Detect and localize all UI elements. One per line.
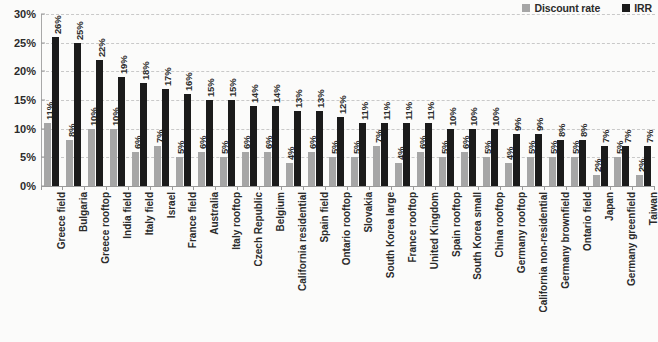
bar-discount-rate[interactable]: 2% bbox=[636, 175, 643, 186]
bar-irr[interactable]: 11% bbox=[425, 123, 432, 186]
bar-irr[interactable]: 11% bbox=[403, 123, 410, 186]
bar-irr[interactable]: 15% bbox=[206, 100, 213, 186]
x-axis-label-cell: Italy rooftop bbox=[216, 192, 238, 340]
x-axis-tick-mark bbox=[567, 186, 589, 190]
bar-discount-rate[interactable]: 6% bbox=[308, 152, 315, 186]
bar-irr[interactable]: 19% bbox=[118, 77, 125, 186]
bar-irr[interactable]: 9% bbox=[513, 134, 520, 186]
bar-irr[interactable]: 26% bbox=[52, 37, 59, 186]
bar-discount-rate[interactable]: 5% bbox=[220, 157, 227, 186]
bar-discount-rate[interactable]: 6% bbox=[461, 152, 468, 186]
x-axis-label-cell: India field bbox=[107, 192, 129, 340]
bar-irr[interactable]: 16% bbox=[184, 94, 191, 186]
bar-irr[interactable]: 11% bbox=[381, 123, 388, 186]
bar-group: 5%9% bbox=[523, 14, 545, 186]
y-axis-tick-mark bbox=[41, 42, 45, 43]
bar-discount-rate[interactable]: 4% bbox=[395, 163, 402, 186]
bar-irr[interactable]: 10% bbox=[491, 129, 498, 186]
bar-discount-rate[interactable]: 5% bbox=[614, 157, 621, 186]
bar-irr[interactable]: 18% bbox=[140, 83, 147, 186]
bar-discount-rate[interactable]: 5% bbox=[527, 157, 534, 186]
x-axis-label-cell: Taiwan bbox=[633, 192, 655, 340]
legend-label: IRR bbox=[634, 2, 652, 14]
y-axis-tick-mark bbox=[41, 100, 45, 101]
bar-irr[interactable]: 9% bbox=[535, 134, 542, 186]
bar-irr[interactable]: 25% bbox=[74, 43, 81, 186]
bar-irr[interactable]: 8% bbox=[557, 140, 564, 186]
x-axis-label-cell: France rooftop bbox=[392, 192, 414, 340]
square-swatch-icon bbox=[522, 4, 530, 12]
y-axis-tick-label: 30% bbox=[14, 8, 36, 20]
bar-group: 5%8% bbox=[545, 14, 567, 186]
bar-discount-rate[interactable]: 6% bbox=[132, 152, 139, 186]
y-axis-tick-label: 0% bbox=[20, 180, 36, 192]
bar-discount-rate[interactable]: 5% bbox=[329, 157, 336, 186]
bar-group: 4%13% bbox=[282, 14, 304, 186]
bar-discount-rate[interactable]: 5% bbox=[351, 157, 358, 186]
bar-discount-rate[interactable]: 5% bbox=[571, 157, 578, 186]
x-axis-label-cell: France field bbox=[173, 192, 195, 340]
bar-irr[interactable]: 12% bbox=[337, 117, 344, 186]
x-axis-tick-mark bbox=[238, 186, 260, 190]
y-axis-tick-label: 20% bbox=[14, 65, 36, 77]
bar-irr[interactable]: 8% bbox=[579, 140, 586, 186]
x-axis-tick-mark bbox=[458, 186, 480, 190]
x-axis-label-cell: California non-residential bbox=[523, 192, 545, 340]
legend-item[interactable]: IRR bbox=[622, 2, 652, 14]
bar-discount-rate[interactable]: 7% bbox=[373, 146, 380, 186]
bar-value-label: 8% bbox=[556, 124, 567, 137]
x-axis-tick-mark bbox=[436, 186, 458, 190]
bar-irr[interactable]: 15% bbox=[228, 100, 235, 186]
bar-group: 2%7% bbox=[589, 14, 611, 186]
bar-discount-rate[interactable]: 6% bbox=[198, 152, 205, 186]
bar-irr[interactable]: 11% bbox=[359, 123, 366, 186]
bar-discount-rate[interactable]: 6% bbox=[264, 152, 271, 186]
x-axis-tick-mark bbox=[611, 186, 633, 190]
bar-discount-rate[interactable]: 10% bbox=[88, 129, 95, 186]
x-axis-label-cell: Ontario field bbox=[567, 192, 589, 340]
bar-discount-rate[interactable]: 6% bbox=[242, 152, 249, 186]
bar-irr[interactable]: 7% bbox=[644, 146, 651, 186]
bar-discount-rate[interactable]: 10% bbox=[110, 129, 117, 186]
bar-irr[interactable]: 10% bbox=[469, 129, 476, 186]
x-axis-tick-mark bbox=[85, 186, 107, 190]
x-axis-ticks bbox=[41, 186, 655, 190]
bar-discount-rate[interactable]: 7% bbox=[154, 146, 161, 186]
x-axis-label-cell: Italy field bbox=[129, 192, 151, 340]
y-axis-tick-mark bbox=[41, 128, 45, 129]
bar-discount-rate[interactable]: 5% bbox=[483, 157, 490, 186]
bar-discount-rate[interactable]: 4% bbox=[505, 163, 512, 186]
bar-irr[interactable]: 10% bbox=[447, 129, 454, 186]
bar-group: 5%16% bbox=[173, 14, 195, 186]
bar-discount-rate[interactable]: 5% bbox=[549, 157, 556, 186]
bar-irr[interactable]: 13% bbox=[316, 111, 323, 186]
x-axis-label-cell: Germany greenfield bbox=[611, 192, 633, 340]
bar-irr[interactable]: 17% bbox=[162, 89, 169, 186]
x-axis-tick-mark bbox=[304, 186, 326, 190]
bar-irr[interactable]: 7% bbox=[601, 146, 608, 186]
y-axis-tick-mark bbox=[41, 157, 45, 158]
bar-group: 5%10% bbox=[479, 14, 501, 186]
bar-value-label: 14% bbox=[249, 84, 260, 102]
bar-discount-rate[interactable]: 8% bbox=[66, 140, 73, 186]
bar-irr[interactable]: 7% bbox=[622, 146, 629, 186]
bar-irr[interactable]: 14% bbox=[272, 106, 279, 186]
bar-discount-rate[interactable]: 6% bbox=[417, 152, 424, 186]
bar-group: 6%13% bbox=[304, 14, 326, 186]
bar-group: 5%12% bbox=[326, 14, 348, 186]
bar-group: 4%11% bbox=[392, 14, 414, 186]
bar-discount-rate[interactable]: 4% bbox=[286, 163, 293, 186]
bar-discount-rate[interactable]: 11% bbox=[44, 123, 51, 186]
bar-irr[interactable]: 22% bbox=[96, 60, 103, 186]
bar-discount-rate[interactable]: 2% bbox=[593, 175, 600, 186]
x-axis-label-cell: Israel bbox=[151, 192, 173, 340]
x-axis-tick-mark bbox=[107, 186, 129, 190]
bar-irr[interactable]: 13% bbox=[294, 111, 301, 186]
bar-discount-rate[interactable]: 5% bbox=[439, 157, 446, 186]
bar-irr[interactable]: 14% bbox=[250, 106, 257, 186]
bar-discount-rate[interactable]: 5% bbox=[176, 157, 183, 186]
bar-value-label: 11% bbox=[381, 102, 392, 120]
bar-group: 6%11% bbox=[414, 14, 436, 186]
bar-group: 6%14% bbox=[238, 14, 260, 186]
legend-item[interactable]: Discount rate bbox=[522, 2, 600, 14]
